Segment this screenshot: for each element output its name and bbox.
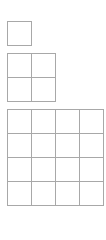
- grid-cell: [8, 22, 32, 46]
- grid-cell: [32, 78, 56, 102]
- grid-cell: [8, 54, 32, 78]
- grid-1x1: [7, 21, 32, 46]
- grid-2x2: [7, 53, 56, 102]
- grid-cell: [32, 158, 56, 182]
- grid-cell: [56, 110, 80, 134]
- grid-cell: [80, 134, 104, 158]
- grid-cell: [56, 158, 80, 182]
- grid-cell: [8, 134, 32, 158]
- grid-cell: [56, 134, 80, 158]
- grid-cell: [32, 134, 56, 158]
- grid-cell: [8, 158, 32, 182]
- grid-cell: [32, 110, 56, 134]
- grid-4x4: [7, 109, 104, 206]
- grid-cell: [8, 182, 32, 206]
- grid-cell: [32, 182, 56, 206]
- grid-cell: [80, 158, 104, 182]
- grid-cell: [56, 182, 80, 206]
- grid-cell: [8, 110, 32, 134]
- grid-cell: [32, 54, 56, 78]
- grid-cell: [80, 110, 104, 134]
- grid-cell: [8, 78, 32, 102]
- grid-cell: [80, 182, 104, 206]
